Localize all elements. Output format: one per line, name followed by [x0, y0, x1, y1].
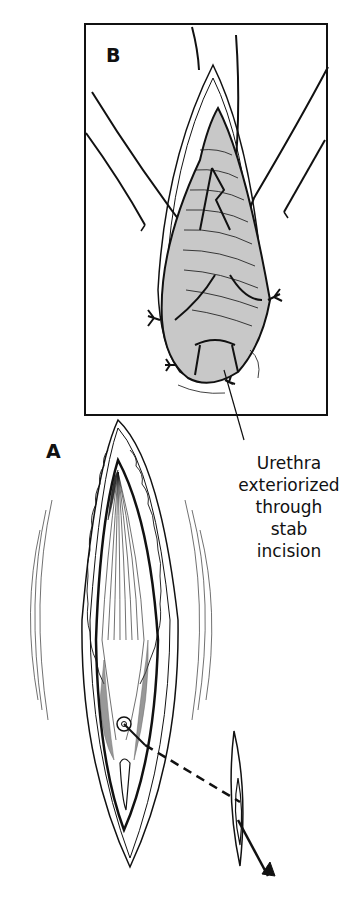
caption-urethra-exteriorized: Urethra exteriorized through stab incisi… — [228, 452, 345, 562]
panel-a-drawing — [30, 420, 211, 867]
stab-incision — [231, 731, 275, 876]
caption-leader-line — [224, 370, 244, 440]
panel-label-b: B — [106, 44, 120, 66]
route-arrow — [124, 724, 240, 802]
caption-line: stab — [228, 518, 345, 540]
caption-line: Urethra — [228, 452, 345, 474]
caption-line: through — [228, 496, 345, 518]
panel-label-a: A — [46, 440, 61, 462]
caption-line: incision — [228, 540, 345, 562]
panel-b-drawing — [86, 27, 328, 393]
caption-line: exteriorized — [228, 474, 345, 496]
